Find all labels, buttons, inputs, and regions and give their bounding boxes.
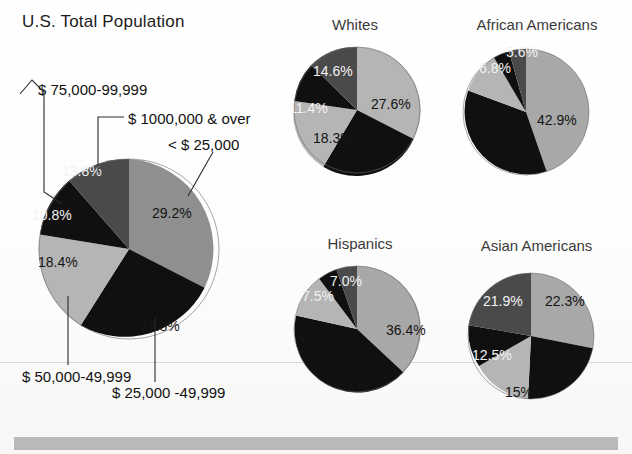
pie-chart-asian-americans	[467, 272, 595, 400]
slice-label-aa-75000-99999: 6.8%	[479, 60, 511, 76]
slice-asian-under-25000[interactable]	[531, 273, 594, 348]
slice-label-whites-75000-99999: 11.4%	[289, 100, 328, 116]
leader-75000-99999	[20, 80, 62, 204]
figure-canvas: U.S. Total Population 29.2% 27.8% 18.4% …	[0, 0, 632, 454]
pie-svg-asian-americans	[467, 272, 595, 400]
slice-label-whites-1000000-and-over: 14.6%	[313, 63, 353, 79]
pie-title-asian-americans: Asian Americans	[459, 237, 614, 254]
slice-label-hisp-1000000-and-over: 7.0%	[330, 273, 362, 289]
leader-under-25000	[188, 152, 213, 196]
slice-label-asian-75000-99999: 12.5%	[472, 347, 512, 363]
slice-label-asian-1000000-and-over: 21.9%	[483, 293, 523, 309]
pie-title-hispanics: Hispanics	[300, 235, 420, 252]
slice-label-hisp-under-25000: 36.4%	[386, 322, 426, 338]
slice-label-aa-50000-49999: 15.4%	[468, 103, 508, 119]
pie-title-whites: Whites	[295, 16, 415, 33]
slice-label-whites-50000-49999: 18.3%	[313, 130, 353, 146]
leader-1000000-and-over	[98, 117, 124, 172]
slice-label-asian-50000-49999: 15%	[505, 384, 533, 400]
slice-label-aa-under-25000: 42.9%	[537, 112, 577, 128]
slice-label-aa-1000000-and-over: 5.6%	[506, 44, 538, 60]
footer-bar	[14, 437, 618, 450]
slice-label-asian-under-25000: 22.3%	[545, 293, 585, 309]
slice-label-hisp-75000-99999: 7.5%	[302, 288, 334, 304]
pie-title-african-americans: African Americans	[452, 16, 622, 33]
slice-label-whites-under-25000: 27.6%	[371, 96, 411, 112]
slice-label-hisp-50000-49999: 16.5	[298, 327, 325, 343]
